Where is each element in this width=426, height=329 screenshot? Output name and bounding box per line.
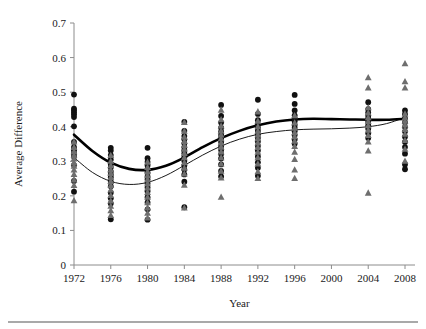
data-point-triangle bbox=[71, 182, 78, 188]
data-point-circle bbox=[71, 114, 77, 120]
y-tick-label: 0.1 bbox=[52, 224, 66, 236]
data-point-circle bbox=[402, 166, 408, 172]
scatter-plot: 00.10.20.30.40.50.60.7197219761980198419… bbox=[0, 0, 426, 329]
data-point-triangle bbox=[291, 149, 298, 155]
data-point-triangle bbox=[291, 166, 298, 172]
x-tick-label: 1984 bbox=[173, 272, 196, 284]
trend-lines-group bbox=[74, 117, 405, 184]
data-point-circle bbox=[292, 92, 298, 98]
x-tick-label: 2004 bbox=[357, 272, 380, 284]
x-tick-label: 2008 bbox=[394, 272, 417, 284]
data-point-triangle bbox=[402, 78, 409, 84]
axes-group bbox=[70, 23, 415, 269]
y-tick-label: 0.4 bbox=[52, 121, 66, 133]
y-tick-label: 0 bbox=[61, 259, 67, 271]
data-point-triangle bbox=[365, 74, 372, 80]
data-point-circle bbox=[71, 189, 77, 195]
x-tick-label: 1980 bbox=[137, 272, 160, 284]
data-point-circle bbox=[71, 92, 77, 98]
x-tick-label: 1992 bbox=[247, 272, 269, 284]
y-tick-label: 0.7 bbox=[52, 17, 66, 29]
y-tick-label: 0.6 bbox=[52, 52, 66, 64]
x-axis-title: Year bbox=[229, 297, 250, 309]
data-point-circle bbox=[71, 123, 77, 129]
y-tick-label: 0.2 bbox=[52, 190, 66, 202]
data-point-circle bbox=[255, 97, 261, 103]
data-point-triangle bbox=[291, 156, 298, 162]
figure-container: 00.10.20.30.40.50.60.7197219761980198419… bbox=[0, 0, 426, 329]
data-point-triangle bbox=[291, 175, 298, 181]
x-tick-label: 1976 bbox=[100, 272, 123, 284]
x-tick-label: 1972 bbox=[63, 272, 85, 284]
data-point-triangle bbox=[365, 84, 372, 90]
x-tick-label: 1988 bbox=[210, 272, 233, 284]
trend-line-thick bbox=[74, 119, 405, 170]
data-point-triangle bbox=[71, 197, 78, 203]
x-tick-label: 2000 bbox=[320, 272, 343, 284]
x-tick-label: 1996 bbox=[284, 272, 307, 284]
data-point-triangle bbox=[402, 60, 409, 66]
data-point-triangle bbox=[402, 158, 409, 164]
data-point-triangle bbox=[365, 147, 372, 153]
y-axis-title: Average Difference bbox=[12, 101, 24, 187]
data-point-triangle bbox=[254, 108, 261, 114]
y-tick-label: 0.3 bbox=[52, 155, 66, 167]
data-points-group bbox=[71, 60, 409, 223]
data-point-triangle bbox=[218, 106, 225, 112]
data-point-circle bbox=[145, 145, 151, 151]
trend-line-thin bbox=[74, 117, 405, 184]
data-point-triangle bbox=[365, 189, 372, 195]
data-point-triangle bbox=[218, 193, 225, 199]
data-point-triangle bbox=[402, 84, 409, 90]
y-tick-label: 0.5 bbox=[52, 86, 66, 98]
data-point-circle bbox=[292, 101, 298, 107]
